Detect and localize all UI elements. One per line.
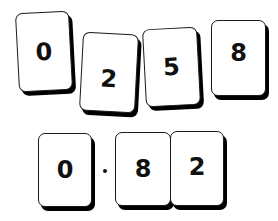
digit-card-2-bottom[interactable]: 2 [170,131,224,206]
digit-label: 2 [100,66,118,91]
digit-label: 0 [57,158,74,182]
digit-card-8-top[interactable]: 8 [211,20,266,96]
digit-label: 0 [35,39,53,64]
decimal-point [103,169,107,173]
digit-card-8-bottom[interactable]: 8 [115,132,171,206]
digit-card-0-top[interactable]: 0 [15,11,73,93]
digit-card-5-top[interactable]: 5 [142,27,201,108]
digit-label: 2 [189,155,206,179]
digit-card-2-top[interactable]: 2 [79,32,139,114]
digit-label: 8 [135,157,152,181]
digit-card-0-bottom[interactable]: 0 [38,133,92,207]
digit-label: 5 [163,55,181,80]
digit-label: 8 [230,41,247,65]
